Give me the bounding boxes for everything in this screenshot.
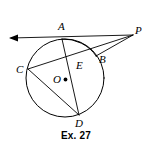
center-point-dot <box>64 78 68 82</box>
tangent-line-through-a <box>11 35 133 38</box>
label-point-p: P <box>134 24 142 36</box>
arrow-head-icon <box>9 35 18 42</box>
figure-container: A B C D E O P Ex. 27 <box>0 0 152 150</box>
circle-geometry-diagram: A B C D E O P <box>0 0 152 150</box>
chord-a-to-d <box>62 39 79 115</box>
label-point-b: B <box>99 53 106 65</box>
label-point-e: E <box>75 59 83 71</box>
figure-caption: Ex. 27 <box>0 130 152 142</box>
label-point-o: O <box>53 73 61 85</box>
arc-a-to-b <box>62 39 97 57</box>
label-point-a: A <box>57 20 65 32</box>
label-point-c: C <box>16 63 24 75</box>
label-point-d: D <box>74 117 83 129</box>
